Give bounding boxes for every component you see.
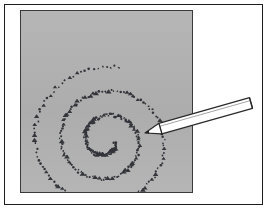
drawing-surface[interactable] (20, 10, 193, 193)
outer-frame (4, 4, 263, 205)
illustration-root: Hand-drawn spiral on a gray drawing surf… (0, 0, 269, 214)
stippled-spiral (21, 11, 193, 193)
spiral-dot-group (32, 64, 166, 192)
